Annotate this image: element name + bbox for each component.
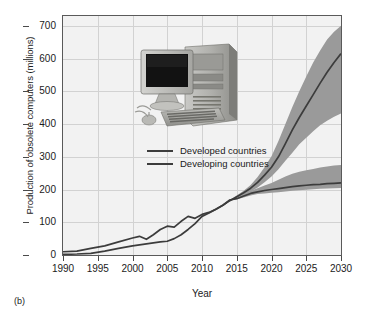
figure-panel: Production of obsolete computers (millio… [0,0,372,315]
y-tick-label: 300 [16,152,56,162]
x-tick-mark [133,256,134,261]
x-tick-label: 2030 [321,264,361,274]
x-tick-mark [167,256,168,261]
y-tick-label: 200 [16,185,56,195]
y-tick-label: 500 [16,86,56,96]
desktop-computer-photo [133,42,253,140]
uncertainty-band-developed [63,165,341,252]
legend-line-developing-icon [147,163,173,165]
y-tick-label: 700 [16,21,56,31]
y-tick-label: 400 [16,119,56,129]
x-tick-mark [341,256,342,261]
x-tick-mark [63,256,64,261]
y-tick-label: 0 [16,250,56,260]
x-tick-mark [306,256,307,261]
y-tick-label: 100 [16,217,56,227]
x-tick-mark [272,256,273,261]
x-axis-title: Year [62,288,342,299]
computer-illustration [133,42,253,140]
x-tick-mark [202,256,203,261]
gridline-vertical [341,16,342,255]
y-tick-label: 600 [16,54,56,64]
legend-item-developed: Developed countries [147,144,269,157]
legend-item-developing: Developing countries [147,157,269,170]
plot-area: Developed countries Developing countries [62,15,342,256]
x-tick-mark [98,256,99,261]
figure-caption: (b) [14,296,25,306]
chart-legend: Developed countries Developing countries [147,144,269,170]
legend-label-developed: Developed countries [180,145,267,156]
legend-line-developed-icon [147,150,173,152]
legend-label-developing: Developing countries [180,158,269,169]
x-tick-mark [237,256,238,261]
